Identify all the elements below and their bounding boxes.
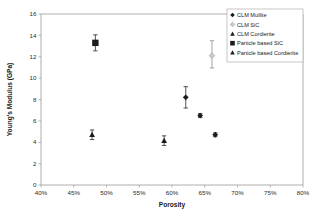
x-tick-label: 50%	[100, 189, 113, 196]
legend-item-label: Particle based Cordierite	[237, 50, 298, 56]
y-tick-label: 14	[30, 32, 37, 39]
chart-container: 0246810121416 40%45%50%55%60%65%70%75%80…	[0, 0, 325, 222]
legend-item[interactable]: Particle based SiC	[230, 40, 283, 46]
legend-item[interactable]: Particle based Cordierite	[230, 50, 298, 56]
y-tick-label: 4	[33, 138, 37, 145]
x-tick-label: 40%	[35, 189, 48, 196]
x-tick-label: 80%	[297, 189, 310, 196]
young-modulus-vs-porosity-chart: 0246810121416 40%45%50%55%60%65%70%75%80…	[0, 0, 325, 222]
data-point	[212, 132, 218, 138]
y-tick-label: 10	[30, 74, 37, 81]
y-tick-label: 8	[33, 96, 37, 103]
y-tick-label: 2	[33, 160, 37, 167]
legend-item[interactable]: CLM Cordierite	[230, 31, 274, 37]
y-axis-title: Young's Modulus (GPa)	[6, 63, 14, 137]
x-tick-label: 65%	[199, 189, 212, 196]
legend-item-label: CLM SiC	[237, 22, 259, 28]
data-point	[197, 113, 203, 119]
x-tick-label: 55%	[133, 189, 146, 196]
x-tick-label: 45%	[68, 189, 81, 196]
y-tick-label: 12	[30, 53, 37, 60]
x-axis-title: Porosity	[159, 201, 186, 209]
y-tick-label: 0	[33, 181, 37, 188]
x-tick-label: 75%	[264, 189, 277, 196]
chart-legend: CLM MulliteCLM SiCCLM CordieriteParticle…	[227, 9, 303, 62]
legend-item-label: CLM Cordierite	[237, 31, 275, 37]
y-tick-label: 16	[30, 10, 37, 17]
x-tick-label: 60%	[166, 189, 179, 196]
x-tick-label: 70%	[231, 189, 244, 196]
y-tick-label: 6	[33, 117, 37, 124]
legend-item-label: CLM Mullite	[237, 12, 267, 18]
legend-item-label: Particle based SiC	[237, 40, 283, 46]
